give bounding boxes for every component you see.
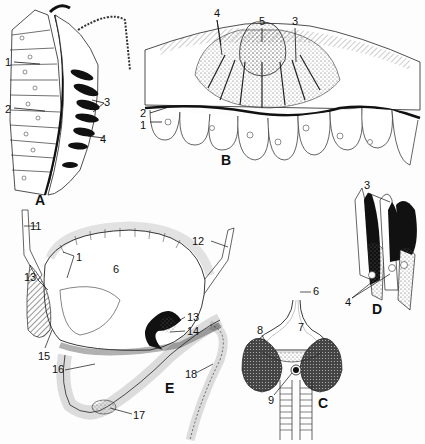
illustration-drawing (0, 0, 425, 444)
label-c-8: 8 (257, 325, 263, 336)
panel-letter-a: A (35, 193, 45, 207)
panel-letter-c: C (318, 396, 328, 410)
label-e-13a: 13 (24, 272, 36, 283)
label-e-11: 11 (30, 221, 41, 232)
label-b-2: 2 (140, 108, 146, 119)
label-a-2: 2 (5, 104, 11, 115)
panel-letter-d: D (372, 302, 382, 316)
label-e-1: 1 (76, 252, 82, 263)
label-b-1: 1 (140, 120, 146, 131)
label-b-3: 3 (292, 16, 298, 27)
label-e-17: 17 (133, 410, 145, 421)
label-e-13b: 13 (187, 312, 199, 323)
label-e-6: 6 (113, 264, 119, 275)
label-d-4: 4 (345, 297, 351, 308)
histology-figure: 1 2 3 4 A 4 5 3 2 1 B 3 4 D 11 12 1 6 13… (0, 0, 425, 444)
panel-letter-b: B (221, 153, 231, 167)
label-e-15: 15 (38, 351, 50, 362)
panel-letter-e: E (165, 381, 174, 395)
label-e-14: 14 (187, 326, 199, 337)
label-c-9: 9 (268, 395, 274, 406)
label-b-5: 5 (259, 16, 265, 27)
label-e-12: 12 (192, 236, 204, 247)
label-c-7: 7 (298, 322, 304, 333)
label-e-18: 18 (185, 369, 197, 380)
panel-d-drawing (352, 188, 417, 310)
panel-c-drawing (242, 292, 342, 440)
label-b-4: 4 (214, 8, 220, 19)
panel-b-drawing (145, 20, 420, 165)
label-e-16: 16 (52, 364, 64, 375)
panel-a-drawing (10, 6, 130, 195)
label-d-3: 3 (364, 180, 370, 191)
label-a-1: 1 (5, 57, 11, 68)
label-a-4: 4 (100, 134, 106, 145)
label-c-6: 6 (313, 286, 319, 297)
label-a-3: 3 (104, 97, 110, 108)
